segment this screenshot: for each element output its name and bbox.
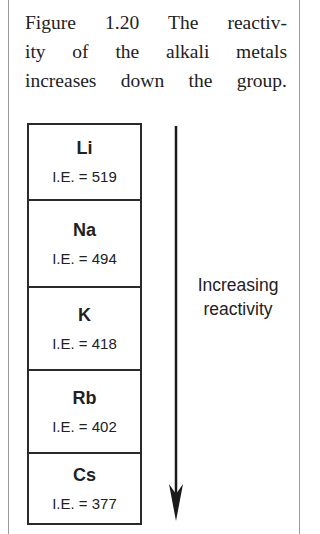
arrow-label: Increasing reactivity [184, 273, 292, 321]
element-cell-li: Li I.E. = 519 [29, 125, 140, 199]
arrow-label-line-2: reactivity [184, 297, 292, 321]
ionization-energy: I.E. = 494 [52, 249, 117, 269]
element-cell-k: K I.E. = 418 [29, 286, 140, 369]
element-symbol: Cs [73, 464, 96, 486]
caption-line-2: ity of the alkali metals [25, 37, 287, 66]
alkali-metal-stack: Li I.E. = 519 Na I.E. = 494 K I.E. = 418… [27, 123, 142, 525]
element-symbol: Rb [73, 387, 97, 409]
ionization-energy: I.E. = 519 [52, 167, 117, 187]
element-symbol: K [78, 304, 91, 326]
caption-line-3: increases down the group. [25, 66, 287, 95]
element-symbol: Na [73, 219, 96, 241]
element-cell-rb: Rb I.E. = 402 [29, 369, 140, 452]
element-cell-cs: Cs I.E. = 377 [29, 452, 140, 523]
ionization-energy: I.E. = 402 [52, 417, 117, 437]
ionization-energy: I.E. = 377 [52, 494, 117, 514]
element-cell-na: Na I.E. = 494 [29, 199, 140, 286]
down-arrow-icon [168, 126, 186, 521]
arrow-label-line-1: Increasing [184, 273, 292, 297]
caption-line-1: Figure 1.20 The reactiv- [25, 8, 287, 37]
figure-caption: Figure 1.20 The reactiv- ity of the alka… [25, 8, 287, 95]
ionization-energy: I.E. = 418 [52, 334, 117, 354]
element-symbol: Li [77, 137, 93, 159]
